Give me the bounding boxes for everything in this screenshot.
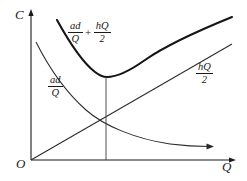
total-cost-label: ad Q + hQ 2 [68,20,111,44]
ordering-cost-numerator: ad [68,20,83,31]
ordering-cost-denominator: Q [49,87,61,98]
plus-operator: + [83,27,94,38]
eoq-cost-chart: C O Q ad Q + hQ 2 ad Q hQ 2 [0,0,247,181]
holding-cost-label: hQ 2 [196,61,213,85]
holding-cost-numerator: hQ [94,20,111,31]
holding-cost-denominator: 2 [200,74,209,85]
ordering-cost-arrowhead [207,144,215,150]
origin-label: O [16,157,25,170]
x-axis [31,157,236,162]
holding-cost-numerator: hQ [196,61,213,72]
holding-cost-denominator: 2 [98,33,107,44]
ordering-cost-denominator: Q [69,33,81,44]
holding-cost-fraction: hQ 2 [196,61,213,85]
y-axis-arrowhead [28,9,33,16]
y-axis-label: C [15,8,24,21]
ordering-cost-curve [36,42,214,149]
ordering-cost-numerator: ad [48,74,63,85]
x-axis-label: Q [222,160,231,173]
y-axis [28,9,33,160]
chart-canvas [0,0,247,181]
ordering-cost-fraction: ad Q [68,20,83,44]
ordering-cost-fraction: ad Q [48,74,63,98]
ordering-cost-label: ad Q [48,74,63,98]
holding-cost-fraction: hQ 2 [94,20,111,44]
